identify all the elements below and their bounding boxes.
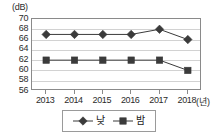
data-point-square [185, 67, 191, 73]
series-line [46, 60, 188, 70]
x-axis-tick-label: 2017 [144, 95, 174, 105]
y-axis-tick-label: 64 [12, 44, 28, 53]
plot-area [31, 18, 201, 90]
series-layer [32, 19, 202, 91]
x-axis-tick [74, 90, 75, 94]
y-axis-tick-label: 58 [12, 75, 28, 84]
y-axis-tick-label: 70 [12, 14, 28, 23]
x-axis-tick [130, 90, 131, 94]
y-axis-tick-label: 62 [12, 55, 28, 64]
data-point-square [156, 57, 162, 63]
x-axis-tick [102, 90, 103, 94]
data-point-square [100, 57, 106, 63]
data-point-diamond [155, 25, 163, 33]
legend-square-icon [113, 116, 133, 126]
legend-diamond-icon [73, 116, 93, 126]
x-axis-tick [187, 90, 188, 94]
data-point-square [120, 118, 126, 124]
legend-label: 밤 [136, 116, 145, 126]
legend-item-낮[interactable]: 낮 [73, 116, 105, 126]
chart-legend: 낮밤 [62, 110, 156, 132]
x-axis-tick [45, 90, 46, 94]
data-point-diamond [42, 30, 50, 38]
data-point-diamond [184, 35, 192, 43]
data-point-diamond [70, 30, 78, 38]
data-point-square [71, 57, 77, 63]
y-axis-tick-label: 66 [12, 34, 28, 43]
x-axis-tick-label: 2014 [59, 95, 89, 105]
data-point-square [43, 57, 49, 63]
y-axis-tick-label: 56 [12, 86, 28, 95]
x-axis-tick [159, 90, 160, 94]
y-axis-tick-label: 68 [12, 24, 28, 33]
y-axis-tick-labels: 7068666462605856 [10, 0, 28, 140]
series-낮 [42, 25, 192, 44]
x-axis-tick-label: 2016 [115, 95, 145, 105]
legend-label: 낮 [96, 116, 105, 126]
series-line [46, 29, 188, 39]
x-axis-unit-label: (년) [196, 95, 210, 108]
series-밤 [43, 57, 191, 74]
data-point-diamond [127, 30, 135, 38]
y-axis-tick-label: 60 [12, 65, 28, 74]
x-axis-tick-label: 2013 [30, 95, 60, 105]
legend-item-밤[interactable]: 밤 [113, 116, 145, 126]
data-point-diamond [99, 30, 107, 38]
data-point-square [128, 57, 134, 63]
x-axis-tick-label: 2015 [87, 95, 117, 105]
noise-level-line-chart: (dB) 7068666462605856 201320142015201620… [0, 0, 218, 140]
data-point-diamond [79, 117, 87, 125]
